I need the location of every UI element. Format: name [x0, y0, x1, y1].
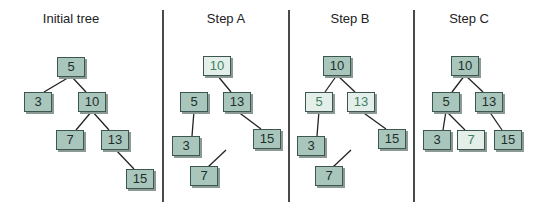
diagram-canvas: Initial tree Step A Step B Step C 5 3 10… — [0, 0, 545, 214]
tree-node-5: 5 — [305, 92, 333, 112]
tree-node-5: 5 — [432, 92, 460, 112]
panel-title-step-b: Step B — [290, 11, 410, 26]
tree-node-7: 7 — [56, 130, 84, 150]
tree-edge — [44, 76, 71, 92]
tree-edge — [452, 75, 465, 92]
tree-edge — [443, 111, 446, 130]
tree-edge — [317, 111, 319, 136]
tree-edge — [192, 111, 194, 136]
panel-title-step-a: Step A — [166, 11, 286, 26]
tree-node-15: 15 — [378, 129, 406, 149]
tree-node-3: 3 — [24, 92, 52, 112]
panel-title-initial-tree: Initial tree — [11, 11, 131, 26]
tree-node-5: 5 — [57, 57, 85, 77]
tree-node-10: 10 — [203, 56, 231, 76]
tree-node-7: 7 — [315, 166, 343, 186]
tree-edge — [446, 111, 465, 130]
tree-node-3: 3 — [172, 136, 200, 156]
tree-edge — [337, 75, 355, 92]
dangling-edge — [333, 150, 351, 167]
tree-node-15: 15 — [494, 130, 522, 150]
panel-title-step-c: Step C — [409, 11, 529, 26]
tree-node-5: 5 — [180, 92, 208, 112]
tree-edge — [92, 111, 109, 130]
tree-node-10: 10 — [323, 56, 351, 76]
tree-edge — [115, 149, 134, 169]
tree-node-15: 15 — [126, 169, 154, 189]
tree-node-7: 7 — [457, 130, 485, 150]
tree-node-13: 13 — [475, 92, 503, 112]
panel-divider — [288, 10, 290, 202]
tree-node-13: 13 — [347, 92, 375, 112]
tree-node-10: 10 — [78, 92, 106, 112]
tree-edge — [71, 76, 86, 92]
tree-node-3: 3 — [297, 136, 325, 156]
tree-edge — [361, 111, 386, 129]
tree-node-3: 3 — [423, 130, 451, 150]
panel-divider — [413, 10, 415, 202]
tree-node-10: 10 — [451, 56, 479, 76]
dangling-edge — [208, 150, 226, 167]
tree-edge — [217, 75, 231, 92]
panel-divider — [162, 10, 164, 202]
tree-node-13: 13 — [101, 130, 129, 150]
tree-edge — [237, 111, 261, 129]
tree-edge — [465, 75, 483, 92]
tree-node-13: 13 — [223, 92, 251, 112]
tree-edge — [489, 111, 502, 130]
tree-node-15: 15 — [253, 129, 281, 149]
tree-node-7: 7 — [190, 166, 218, 186]
tree-edge — [325, 75, 337, 92]
tree-edge — [76, 111, 92, 130]
